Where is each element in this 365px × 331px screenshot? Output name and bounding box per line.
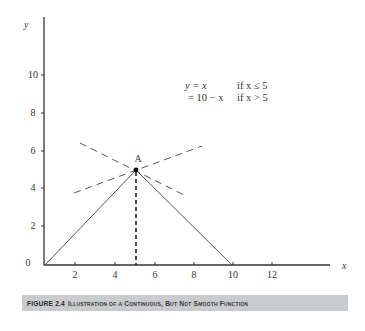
y-tick-label: 2 <box>31 220 36 231</box>
x-axis-label: x <box>341 260 347 271</box>
equation-line1-cond: if x ≤ 5 <box>237 80 268 91</box>
equation-line2-lhs: = 10 − x <box>188 92 224 103</box>
tangent-line-descending <box>80 143 186 196</box>
point-a-marker <box>134 168 139 173</box>
y-tick-label: 4 <box>31 182 36 193</box>
y-tick-label: 6 <box>31 145 36 156</box>
equation-block: y = x if x ≤ 5 = 10 − x if x > 5 <box>184 80 268 103</box>
chart-canvas: 0 2 4 6 8 10 2 4 6 8 10 12 y x A y = x i… <box>0 0 365 331</box>
y-tick-label: 8 <box>31 107 36 118</box>
point-a-label: A <box>134 153 142 164</box>
figure-number: FIGURE 2.4 <box>27 300 65 307</box>
figure-caption-text: Illustration of a Continuous, But Not Sm… <box>68 300 248 307</box>
equation-line1-lhs: y = x <box>184 80 207 91</box>
x-tick-label: 6 <box>153 269 158 280</box>
x-tick-label: 12 <box>267 269 277 280</box>
y-tick-label: 0 <box>26 257 31 268</box>
y-tick-label: 10 <box>28 69 38 80</box>
function-line <box>45 170 232 265</box>
y-axis-label: y <box>23 19 29 30</box>
x-tick-label: 2 <box>73 269 78 280</box>
x-tick-label: 10 <box>228 269 238 280</box>
equation-line2-cond: if x > 5 <box>237 92 268 103</box>
figure-caption: FIGURE 2.4 Illustration of a Continuous,… <box>22 295 348 311</box>
x-tick-label: 8 <box>192 269 197 280</box>
x-tick-label: 4 <box>113 269 118 280</box>
